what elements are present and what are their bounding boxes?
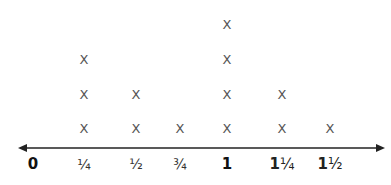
arrow-left-icon: [18, 144, 27, 152]
tick-label-1-1-4: 1¼: [270, 157, 295, 172]
tick-label-1-1-2: 1½: [318, 157, 343, 172]
x-mark: X: [223, 122, 232, 135]
tick-label-1-2: ½: [129, 157, 143, 171]
tick-label-1: 1: [222, 157, 232, 172]
x-mark: X: [80, 122, 89, 135]
x-mark: X: [80, 88, 89, 101]
x-mark: X: [223, 88, 232, 101]
x-mark: X: [278, 122, 287, 135]
tick-label-0: 0: [28, 157, 38, 172]
tick-label-3-4: ¾: [173, 157, 187, 171]
x-mark: X: [278, 88, 287, 101]
x-mark: X: [176, 122, 185, 135]
tick-label-1-4: ¼: [77, 157, 91, 171]
arrow-right-icon: [376, 144, 385, 152]
x-mark: X: [80, 53, 89, 66]
x-mark: X: [223, 53, 232, 66]
x-mark: X: [326, 122, 335, 135]
x-mark: X: [132, 122, 141, 135]
x-mark: X: [223, 18, 232, 31]
x-mark: X: [132, 88, 141, 101]
line-plot: XXXXXXXXXXXXX 0¼½¾11¼1½: [0, 0, 391, 185]
